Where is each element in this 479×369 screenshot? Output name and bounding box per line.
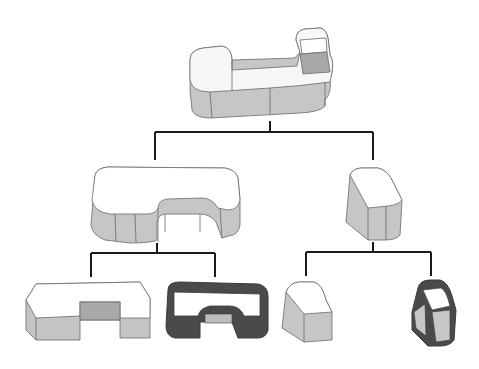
node-right-a-plain-block xyxy=(282,282,332,342)
node-left-b-fillet-highlighted xyxy=(166,282,268,338)
node-left-a-plain-block xyxy=(26,282,150,340)
decomposition-tree-diagram xyxy=(0,0,479,369)
node-root-part xyxy=(190,28,333,118)
node-left-u-block xyxy=(91,167,240,243)
node-right-small-block xyxy=(346,168,402,240)
node-right-b-fillet-highlighted xyxy=(412,280,456,346)
